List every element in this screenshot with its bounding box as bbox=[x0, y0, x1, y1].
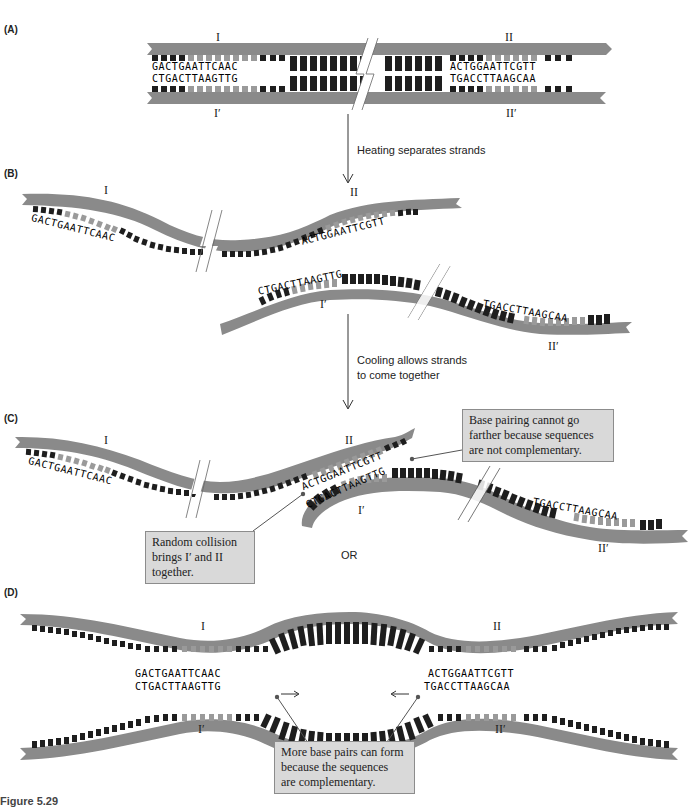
sequence-left-top-d: GACTGAATTCAAC bbox=[135, 668, 221, 679]
callout-line: are not complementary. bbox=[469, 443, 607, 458]
step-heating-text: Heating separates strands bbox=[357, 143, 485, 158]
strand-label-i-prime-d: I′ bbox=[198, 722, 205, 737]
figure-caption: Figure 5.29 bbox=[0, 795, 58, 807]
strand-label-i-prime: I′ bbox=[214, 106, 221, 121]
callout-complementary: More base pairs can form because the seq… bbox=[274, 741, 415, 794]
callout-line: brings I′ and II bbox=[152, 550, 248, 565]
callout-line: More base pairs can form bbox=[281, 745, 408, 760]
strand-label-ii-prime: II′ bbox=[506, 106, 517, 121]
panel-label-d: (D) bbox=[4, 587, 18, 598]
or-label: OR bbox=[341, 549, 358, 561]
sequence-right-top-d: ACTGGAATTCGTT bbox=[428, 668, 514, 679]
sequence-right-bottom-d: TGACCTTAAGCAA bbox=[424, 681, 510, 692]
step-cooling-line-2: to come together bbox=[357, 368, 467, 383]
callout-line: farther because sequences bbox=[469, 428, 607, 443]
sequence-ii-top: ACTGGAATTCGTT bbox=[450, 61, 536, 72]
sequence-left-bottom-d: CTGACTTAAGTTG bbox=[135, 681, 221, 692]
sequence-i-bottom: CTGACTTAAGTTG bbox=[152, 73, 238, 84]
arrow-right-icon bbox=[281, 691, 299, 697]
strand-label-i-prime-c: I′ bbox=[358, 503, 365, 518]
strand-label-ii-prime-d: II′ bbox=[495, 722, 506, 737]
arrow-left-icon bbox=[391, 691, 409, 697]
strand-label-i-prime-b: I′ bbox=[320, 297, 327, 312]
strand-label-ii-prime-c: II′ bbox=[598, 541, 609, 556]
strand-label-i-d: I bbox=[201, 619, 205, 634]
callout-line: Base pairing cannot go bbox=[469, 413, 607, 428]
strand-label-ii-d: II bbox=[493, 619, 501, 634]
callout-line: because the sequences bbox=[281, 760, 408, 775]
callout-line: are complementary. bbox=[281, 775, 408, 790]
strand-label-ii-c: II bbox=[345, 433, 353, 448]
sequence-ii-bottom: TGACCTTAAGCAA bbox=[450, 73, 536, 84]
strand-label-ii-prime-b: II′ bbox=[548, 339, 559, 354]
strand-label-ii-b: II bbox=[350, 185, 358, 200]
strand-label-ii: II bbox=[505, 30, 513, 45]
panel-label-c: (C) bbox=[4, 413, 18, 424]
panel-label-b: (B) bbox=[4, 168, 18, 179]
callout-random-collision: Random collision brings I′ and II togeth… bbox=[145, 531, 255, 584]
dna-diagram-artwork bbox=[0, 0, 697, 811]
strand-label-i-b: I bbox=[104, 183, 108, 198]
arrow-heating bbox=[343, 114, 353, 183]
callout-line: Random collision bbox=[152, 535, 248, 550]
arrow-cooling bbox=[343, 314, 353, 409]
panel-b-strand-iprime-iiprime bbox=[220, 264, 632, 335]
callout-line: together. bbox=[152, 565, 248, 580]
step-cooling-text: Cooling allows strands to come together bbox=[357, 353, 467, 383]
panel-label-a: (A) bbox=[4, 24, 18, 35]
strand-label-i: I bbox=[216, 30, 220, 45]
step-cooling-line-1: Cooling allows strands bbox=[357, 353, 467, 368]
sequence-i-top: GACTGAATTCAAC bbox=[152, 61, 238, 72]
strand-label-i-c: I bbox=[104, 433, 108, 448]
callout-not-complementary: Base pairing cannot go farther because s… bbox=[462, 409, 614, 462]
